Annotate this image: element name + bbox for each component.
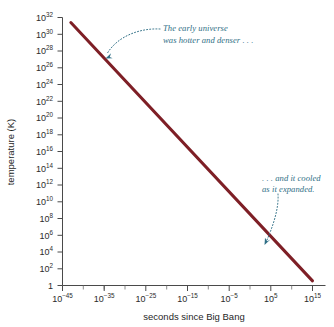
annotation-arrowhead-early-universe (106, 53, 113, 58)
x-ticklabel-5: 105 (264, 292, 278, 304)
x-axis-title: seconds since Big Bang (143, 311, 244, 322)
x-ticklabel-0: 10−45 (52, 292, 73, 304)
y-ticklabel-18: 1018 (36, 128, 54, 140)
annotation-leader-early-universe (108, 29, 161, 53)
annotation-cooled-expanded-line2: as it expanded. (262, 184, 315, 194)
data-line (71, 23, 313, 281)
x-ticklabel-4: 10−5 (221, 292, 239, 304)
y-ticklabel-16: 1016 (36, 145, 54, 157)
y-ticklabel-32: 1032 (36, 11, 54, 23)
y-ticklabel-28: 1028 (36, 44, 54, 56)
y-ticklabel-10: 1010 (36, 195, 54, 207)
y-ticklabel-0: 1 (48, 281, 53, 291)
x-ticklabel-6: 1015 (304, 292, 322, 304)
annotation-early-universe: The early universe was hotter and denser… (106, 23, 254, 59)
y-ticklabel-30: 1030 (36, 28, 54, 40)
y-ticklabel-8: 108 (39, 212, 53, 224)
y-ticklabel-24: 1024 (36, 78, 54, 90)
chart-figure: 1 102 104 106 108 1010 1012 1014 1016 10… (0, 0, 334, 327)
y-ticklabel-20: 1020 (36, 111, 54, 123)
y-axis-tick-labels: 1 102 104 106 108 1010 1012 1014 1016 10… (36, 11, 54, 291)
x-axis-tick-labels: 10−45 10−35 10−25 10−15 10−5 105 1015 (52, 292, 321, 304)
y-axis-ticks (58, 18, 63, 286)
y-ticklabel-12: 1012 (36, 178, 54, 190)
x-ticklabel-1: 10−35 (94, 292, 115, 304)
annotation-cooled-expanded-line1: . . . and it cooled (262, 173, 321, 183)
x-ticklabel-2: 10−25 (135, 292, 156, 304)
x-axis-ticks (63, 286, 313, 292)
y-ticklabel-2: 102 (39, 262, 53, 274)
annotation-early-universe-line2: was hotter and denser . . . (163, 35, 253, 45)
y-ticklabel-22: 1022 (36, 95, 54, 107)
y-ticklabel-6: 106 (39, 229, 53, 241)
series-temperature-of-the-universe (71, 23, 313, 281)
annotation-early-universe-line1: The early universe (163, 23, 228, 33)
y-ticklabel-26: 1026 (36, 61, 54, 73)
y-axis-title: temperature (K) (5, 119, 16, 186)
chart-svg: 1 102 104 106 108 1010 1012 1014 1016 10… (0, 0, 334, 327)
y-ticklabel-14: 1014 (36, 162, 54, 174)
annotation-cooled-expanded: . . . and it cooled as it expanded. (262, 173, 321, 245)
x-ticklabel-3: 10−15 (177, 292, 198, 304)
y-ticklabel-4: 104 (39, 245, 53, 257)
